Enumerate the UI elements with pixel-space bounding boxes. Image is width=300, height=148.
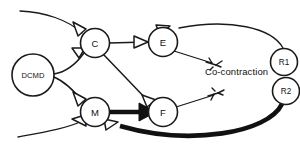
flexor-muscle-terminal	[208, 88, 224, 100]
node-M[interactable]: M	[81, 98, 110, 127]
connection-F-to-flexor-muscle	[176, 95, 214, 107]
synapse-open-C-to-E	[134, 36, 148, 48]
node-C[interactable]: C	[81, 29, 110, 58]
node-E[interactable]: E	[149, 28, 178, 57]
node-R1-label: R1	[279, 58, 290, 67]
neural-circuit-diagram: DCMD C E M F R1 R2 Co-contraction	[0, 0, 300, 148]
node-F-label: F	[160, 107, 166, 118]
connection-E-to-extensor-muscle	[174, 51, 212, 63]
node-R2-label: R2	[281, 87, 292, 96]
connection-sensory-bottom-to-M	[18, 121, 82, 137]
node-R1[interactable]: R1	[271, 49, 298, 76]
annotation-co-contraction: Co-contraction	[205, 66, 268, 77]
node-DCMD[interactable]: DCMD	[12, 54, 54, 96]
node-R2[interactable]: R2	[273, 78, 300, 105]
node-E-label: E	[160, 37, 166, 48]
node-DCMD-label: DCMD	[22, 71, 45, 80]
node-C-label: C	[92, 38, 99, 49]
connection-R1-to-E	[179, 24, 283, 48]
node-M-label: M	[91, 107, 99, 118]
node-F[interactable]: F	[149, 98, 178, 127]
